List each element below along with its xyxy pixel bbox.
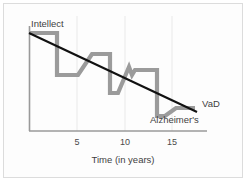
chart-figure: Intellect VaD Alzheimer's Time (in years… (0, 0, 246, 181)
x-axis-title: Time (in years) (0, 155, 246, 165)
series-label-vad: VaD (202, 99, 220, 109)
y-axis-label: Intellect (31, 19, 64, 29)
x-tick-label-10: 10 (115, 137, 135, 147)
x-tick-label-5: 5 (67, 137, 87, 147)
x-tick-label-15: 15 (162, 137, 182, 147)
series-label-alzheimers: Alzheimer's (150, 115, 199, 125)
